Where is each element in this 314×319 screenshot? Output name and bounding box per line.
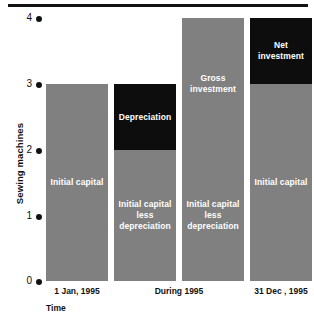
bar-segment-label: Gross investment [184,73,242,95]
bar-group-31-dec-1995: Initial capital Net investment [250,18,312,281]
bar-chart: Sewing machines 4 3 2 1 0 Initial capita… [0,0,314,319]
y-tick-label-0: 0 [22,275,32,287]
x-axis-label-1: 1 Jan, 1995 [46,286,108,296]
y-tick-dot-0 [36,279,42,285]
top-divider-rule [8,4,308,7]
bar-segment-initial-capital: Initial capital [46,84,108,281]
y-tick-3: 3 [22,78,46,90]
y-tick-label-4: 4 [22,12,32,24]
bar-segment-label: Initial capital [51,177,104,188]
y-tick-dot-4 [36,16,42,22]
y-tick-label-3: 3 [22,78,32,90]
plot-area: Initial capital Initial capital less dep… [46,18,312,281]
bar-segment-label: Initial capital less depreciation [116,199,174,232]
bar-segment-initial-capital: Initial capital [250,84,312,281]
bar-segment-initial-capital-less-depreciation: Initial capital less depreciation [114,150,176,281]
bar-segment-net-investment: Net investment [250,18,312,84]
y-axis-title: Sewing machines [14,104,25,224]
y-tick-0: 0 [22,275,46,287]
bar-segment-label: Depreciation [119,112,172,123]
bar-segment-label: Net investment [252,40,310,62]
y-tick-2: 2 [22,144,46,156]
bar-group-1-jan-1995: Initial capital [46,18,108,281]
bar-group-during-1995-depreciation: Initial capital less depreciation Deprec… [114,18,176,281]
bar-segment-gross-investment: Gross investment [182,18,244,150]
bar-segment-depreciation: Depreciation [114,84,176,150]
x-axis-label-2: During 1995 [148,286,210,296]
bar-segment-initial-capital-less-depreciation: Initial capital less depreciation [182,150,244,281]
bar-segment-label: Initial capital less depreciation [184,199,242,232]
x-axis-label-3: 31 Dec , 1995 [250,286,312,296]
bar-segment-label: Initial capital [255,177,308,188]
bar-group-during-1995-gross-investment: Initial capital less depreciation Gross … [182,18,244,281]
x-axis-title: Time [46,303,66,313]
y-tick-dot-2 [36,148,42,154]
y-tick-4: 4 [22,12,46,24]
y-tick-dot-3 [36,82,42,88]
y-tick-label-1: 1 [22,210,32,222]
y-tick-dot-1 [36,214,42,220]
y-tick-1: 1 [22,210,46,222]
y-tick-label-2: 2 [22,144,32,156]
